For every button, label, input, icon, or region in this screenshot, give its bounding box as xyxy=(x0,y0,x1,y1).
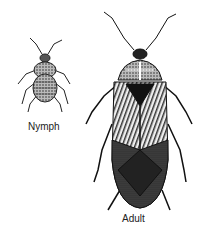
nymph-label: Nymph xyxy=(28,121,60,132)
nymph-drawing xyxy=(18,38,70,112)
adult-label: Adult xyxy=(122,213,145,224)
adult-drawing xyxy=(86,12,192,210)
